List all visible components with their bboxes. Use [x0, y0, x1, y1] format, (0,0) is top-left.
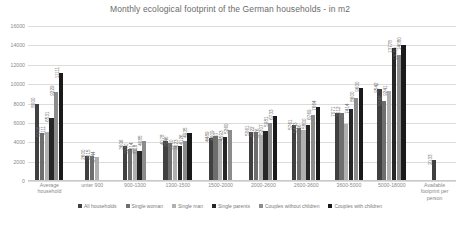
bar-value-label: 5904: [342, 118, 347, 128]
bar-slot: 8600: [354, 26, 358, 181]
bar[interactable]: 5260: [228, 130, 232, 181]
legend-swatch-icon: [126, 204, 130, 208]
legend-item[interactable]: Single man: [172, 203, 203, 209]
x-axis-category-label: 5000-18000: [370, 182, 413, 202]
bar[interactable]: 11111: [59, 73, 63, 181]
bar-value-label: 9542: [375, 82, 380, 92]
bar[interactable]: 8243: [382, 101, 386, 181]
bar-group: 44894609435745935260: [199, 26, 242, 181]
bar-value-label: 7012: [337, 107, 342, 117]
bar-slot: 9600: [359, 26, 363, 181]
bar[interactable]: 9241: [387, 91, 391, 181]
bar-value-label: 4935: [185, 127, 190, 137]
bar[interactable]: 8600: [354, 98, 358, 181]
bar-slot: 5981: [268, 26, 272, 181]
bar[interactable]: 4489: [209, 138, 213, 181]
x-axis-category-label: 2600-3600: [285, 182, 328, 202]
bar-value-label: 9600: [356, 82, 361, 92]
bar[interactable]: 7071: [335, 113, 339, 182]
bar[interactable]: 3118: [137, 151, 141, 181]
bar-value-label: 9229: [52, 85, 57, 95]
bar[interactable]: 7664: [316, 107, 320, 181]
bar-value-label: 5260: [225, 124, 230, 134]
bar[interactable]: 9600: [359, 88, 363, 181]
bar[interactable]: 4593: [223, 137, 227, 181]
bar[interactable]: 5761: [292, 125, 296, 181]
y-axis-tick-label: 0: [22, 178, 25, 184]
y-axis-tick-label: 12000: [11, 62, 25, 68]
bar-slot: 4489: [209, 26, 213, 181]
bar[interactable]: 6531: [49, 118, 53, 181]
bar-slot: 11111: [59, 26, 63, 181]
bar-value-label: 9241: [384, 85, 389, 95]
legend-swatch-icon: [259, 204, 263, 208]
bar-slot: 5207: [263, 26, 267, 181]
bar[interactable]: 5061: [249, 132, 253, 181]
bar[interactable]: 6733: [273, 116, 277, 181]
legend-swatch-icon: [212, 204, 216, 208]
bar-slot: 4609: [213, 26, 217, 181]
y-axis-tick-label: 14000: [11, 42, 25, 48]
bar[interactable]: 4776: [259, 135, 263, 181]
bar[interactable]: 3280: [128, 149, 132, 181]
bar[interactable]: 5022: [254, 132, 258, 181]
legend-label: All households: [84, 203, 117, 209]
bar-slot: 4935: [187, 26, 191, 181]
bar[interactable]: 13778: [392, 48, 396, 181]
bar[interactable]: 5904: [344, 124, 348, 181]
bar-value-label: 5800: [304, 119, 309, 129]
bar-slot: 5800: [306, 26, 310, 181]
bar-value-label: 4085: [140, 135, 145, 145]
bar-value-label: 7664: [313, 101, 318, 111]
x-axis-category-label: 900-1300: [114, 182, 157, 202]
legend-swatch-icon: [78, 204, 82, 208]
bar[interactable]: 6769: [311, 115, 315, 181]
bar-group: 260026152444: [71, 26, 114, 181]
bar[interactable]: 8000: [35, 104, 39, 182]
bar[interactable]: 5256: [301, 130, 305, 181]
bar[interactable]: 5006: [40, 133, 44, 181]
bar-slot: 7414: [349, 26, 353, 181]
bar-group: 2133: [413, 26, 456, 181]
y-axis-tick-label: 10000: [11, 81, 25, 87]
bar-slot: 14080: [401, 26, 405, 181]
bar-value-label: 14080: [399, 37, 404, 50]
bar[interactable]: 3623: [178, 146, 182, 181]
legend-item[interactable]: Single parents: [212, 203, 250, 209]
bar[interactable]: 4126: [183, 141, 187, 181]
legend-label: Couples without children: [265, 203, 319, 209]
y-axis-tick-label: 4000: [13, 139, 25, 145]
bar-slot: 3623: [178, 26, 182, 181]
bar[interactable]: 5800: [306, 125, 310, 181]
bar-slot: 5260: [228, 26, 232, 181]
bar[interactable]: 5443: [297, 128, 301, 181]
bar[interactable]: 5207: [263, 131, 267, 181]
bar-slot: 2133: [432, 26, 436, 181]
legend-item[interactable]: All households: [78, 203, 117, 209]
bar[interactable]: 5981: [268, 123, 272, 181]
bar[interactable]: 2133: [432, 160, 436, 181]
legend-item[interactable]: Couples with children: [328, 203, 382, 209]
bar-value-label: 6769: [308, 109, 313, 119]
legend-item[interactable]: Couples without children: [259, 203, 319, 209]
bar[interactable]: 4609: [213, 136, 217, 181]
bar[interactable]: 7414: [349, 109, 353, 181]
bar[interactable]: 14080: [401, 45, 405, 181]
bar[interactable]: 5111: [45, 132, 49, 182]
bar-value-label: 2444: [92, 151, 97, 161]
plot-area: 8000500651116531922911111260026152444360…: [28, 26, 456, 181]
bar[interactable]: 4357: [218, 139, 222, 181]
x-axis-category-label: unter 900: [71, 182, 114, 202]
y-axis-tick-label: 8000: [13, 101, 25, 107]
bar-slot: 4357: [218, 26, 222, 181]
bar[interactable]: 13050: [397, 55, 401, 181]
bar[interactable]: 9229: [54, 92, 58, 181]
bar-slot: 4126: [183, 26, 187, 181]
bar[interactable]: 4935: [187, 133, 191, 181]
x-axis-category-label: 3600-5000: [328, 182, 371, 202]
bar[interactable]: 2444: [95, 157, 99, 181]
legend-item[interactable]: Single woman: [126, 203, 163, 209]
bar[interactable]: 4085: [142, 141, 146, 181]
x-axis-category-label: 1300-1500: [156, 182, 199, 202]
bar[interactable]: 3610: [173, 146, 177, 181]
